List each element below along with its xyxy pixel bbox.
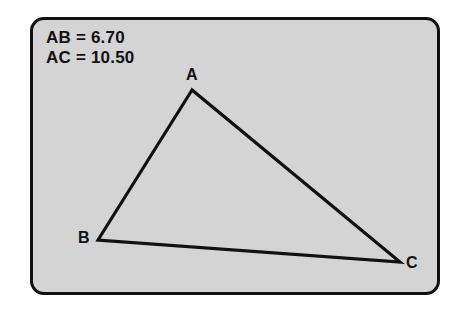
geometry-figure: AB = 6.70 AC = 10.50 A B C bbox=[0, 0, 467, 313]
vertex-label-b: B bbox=[78, 229, 90, 247]
vertex-label-c: C bbox=[406, 254, 418, 272]
vertex-label-a: A bbox=[186, 66, 198, 84]
measurement-ac: AC = 10.50 bbox=[46, 48, 134, 68]
measurement-list: AB = 6.70 AC = 10.50 bbox=[46, 28, 134, 68]
measurement-ab: AB = 6.70 bbox=[46, 28, 134, 48]
triangle-outline bbox=[98, 90, 400, 262]
